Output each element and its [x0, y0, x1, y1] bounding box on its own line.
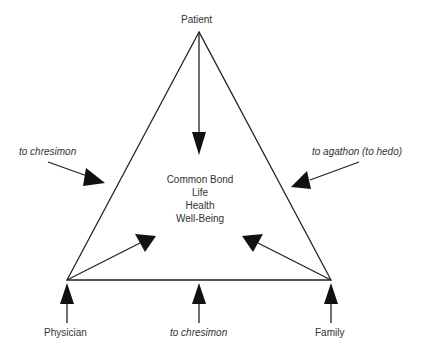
center-line: Health: [140, 199, 260, 212]
right-side-label: to agathon (to hedo): [312, 146, 402, 158]
node-patient: Patient: [181, 14, 212, 26]
physician-arrow: [67, 234, 156, 280]
bottom-side-arrow: [192, 283, 206, 323]
center-line: Common Bond: [140, 173, 260, 186]
patient-arrow: [192, 33, 206, 155]
physician-bottom-arrow: [60, 283, 74, 323]
node-physician: Physician: [44, 327, 87, 339]
center-line: Well-Being: [140, 212, 260, 225]
left-side-arrow: [48, 162, 105, 186]
family-arrow: [242, 234, 331, 280]
right-side-arrow: [291, 162, 359, 189]
left-side-label: to chresimon: [19, 146, 76, 158]
center-line: Life: [140, 186, 260, 199]
node-family: Family: [315, 327, 344, 339]
bottom-side-label: to chresimon: [170, 327, 227, 339]
common-bond-text: Common Bond Life Health Well-Being: [140, 173, 260, 225]
family-bottom-arrow: [324, 283, 338, 323]
